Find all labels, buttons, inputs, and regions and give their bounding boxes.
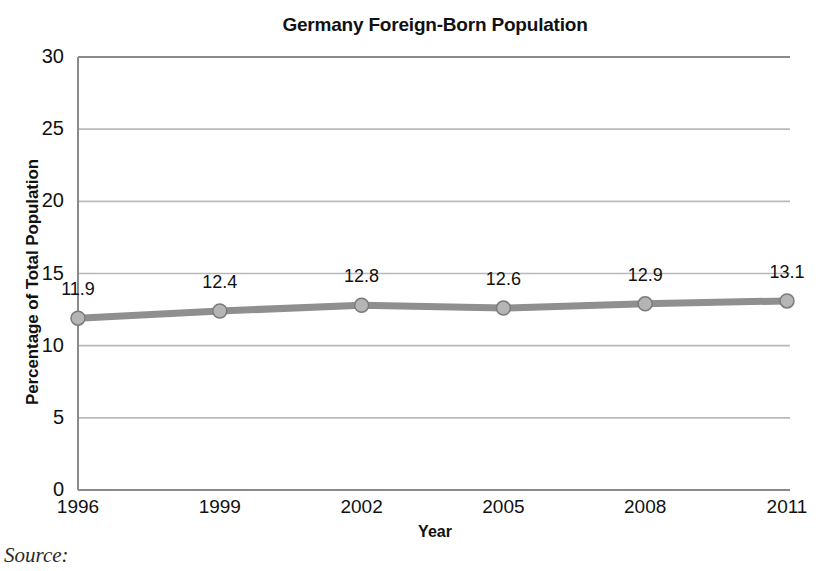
data-point-label: 11.9 — [38, 280, 118, 298]
data-point-label: 12.9 — [605, 266, 685, 284]
x-tick-label: 2002 — [302, 497, 422, 516]
data-point-marker — [780, 294, 794, 308]
data-point-marker — [355, 298, 369, 312]
x-tick-label: 2008 — [585, 497, 705, 516]
x-tick-label: 1996 — [18, 497, 138, 516]
source-note: Source: — [4, 543, 69, 568]
y-tick-label: 20 — [18, 190, 64, 210]
data-point-marker — [638, 297, 652, 311]
data-point-label: 13.1 — [747, 263, 826, 281]
y-tick-label: 5 — [18, 407, 64, 427]
data-point-label: 12.6 — [463, 270, 543, 288]
series-line — [78, 301, 787, 318]
x-tick-label: 2011 — [727, 497, 826, 516]
plot-area — [0, 0, 826, 571]
data-series-germany — [71, 294, 794, 325]
data-point-label: 12.8 — [322, 267, 402, 285]
chart-container: Germany Foreign-Born Population Percenta… — [0, 0, 826, 571]
x-axis-title-text: Year — [418, 523, 452, 541]
x-tick-label: 1999 — [160, 497, 280, 516]
y-tick-label: 30 — [18, 46, 64, 66]
data-point-label: 12.4 — [180, 273, 260, 291]
y-tick-label: 25 — [18, 118, 64, 138]
x-tick-label: 2005 — [443, 497, 563, 516]
data-point-marker — [213, 304, 227, 318]
y-tick-label: 10 — [18, 335, 64, 355]
x-axis-title: Year — [0, 523, 826, 541]
data-point-marker — [496, 301, 510, 315]
data-point-marker — [71, 311, 85, 325]
